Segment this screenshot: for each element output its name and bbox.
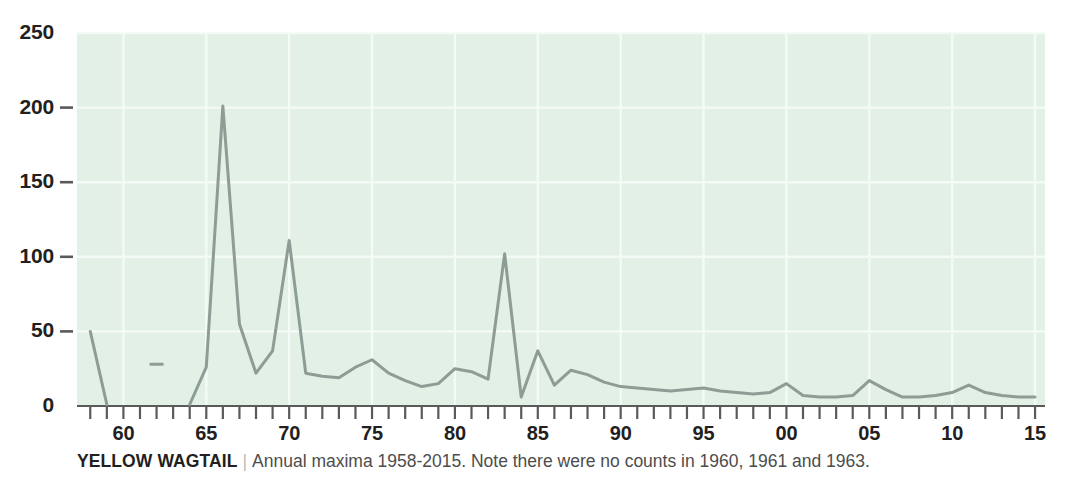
x-tick-label: 65 bbox=[184, 422, 228, 445]
x-tick-label: 90 bbox=[599, 422, 643, 445]
x-tick-label: 80 bbox=[433, 422, 477, 445]
caption-separator: | bbox=[238, 451, 253, 471]
x-tick-label: 05 bbox=[847, 422, 891, 445]
x-tick-label: 70 bbox=[267, 422, 311, 445]
chart-plot-area bbox=[0, 0, 1070, 490]
plot-background bbox=[77, 33, 1045, 406]
chart-figure: 050100150200250 606570758085909500051015… bbox=[0, 0, 1070, 490]
chart-caption: YELLOW WAGTAIL|Annual maxima 1958-2015. … bbox=[77, 450, 870, 472]
y-tick-label: 200 bbox=[0, 95, 54, 119]
y-tick-label: 0 bbox=[0, 393, 54, 417]
x-tick-label: 95 bbox=[682, 422, 726, 445]
x-tick-label: 00 bbox=[764, 422, 808, 445]
y-tick-label: 150 bbox=[0, 169, 54, 193]
caption-species-name: YELLOW WAGTAIL bbox=[77, 451, 238, 471]
x-tick-label: 75 bbox=[350, 422, 394, 445]
x-tick-label: 85 bbox=[516, 422, 560, 445]
y-tick-label: 100 bbox=[0, 244, 54, 268]
x-tick-label: 10 bbox=[930, 422, 974, 445]
y-tick-label: 50 bbox=[0, 318, 54, 342]
x-tick-label: 60 bbox=[101, 422, 145, 445]
caption-description: Annual maxima 1958-2015. Note there were… bbox=[252, 451, 870, 471]
y-tick-label: 250 bbox=[0, 20, 54, 44]
x-tick-label: 15 bbox=[1013, 422, 1057, 445]
